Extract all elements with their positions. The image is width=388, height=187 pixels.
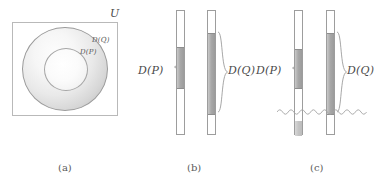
label-dq-panel-a: D(Q) bbox=[92, 37, 110, 44]
panel-a: U D(Q) D(P) (a) bbox=[0, 0, 130, 187]
wavy-cut-line bbox=[277, 107, 367, 117]
label-dp-panel-a: D(P) bbox=[80, 49, 97, 56]
caption-c: (c) bbox=[310, 163, 323, 173]
bar-dp-panel-b bbox=[176, 10, 185, 135]
segment-dq-panel-c bbox=[327, 33, 334, 115]
bar-dq-panel-b bbox=[207, 10, 216, 135]
segment-dp-panel-b bbox=[177, 47, 184, 89]
figure-root: U D(Q) D(P) (a) D(P) bbox=[0, 0, 388, 187]
label-dq-panel-c: D(Q) bbox=[347, 65, 374, 76]
label-dp-panel-b: D(P) bbox=[138, 65, 164, 76]
panel-b: D(P) D(Q) (b) bbox=[130, 0, 250, 187]
caption-b: (b) bbox=[187, 163, 201, 173]
universe-label: U bbox=[110, 8, 119, 19]
label-dp-panel-c: D(P) bbox=[256, 65, 282, 76]
caption-a: (a) bbox=[58, 163, 72, 173]
segment-dq-panel-b bbox=[208, 33, 215, 115]
segment-dp-below-cut-panel-c bbox=[295, 121, 302, 136]
segment-dp-panel-c bbox=[295, 49, 302, 89]
panel-c: D(P) D(Q) (c) bbox=[250, 0, 388, 187]
